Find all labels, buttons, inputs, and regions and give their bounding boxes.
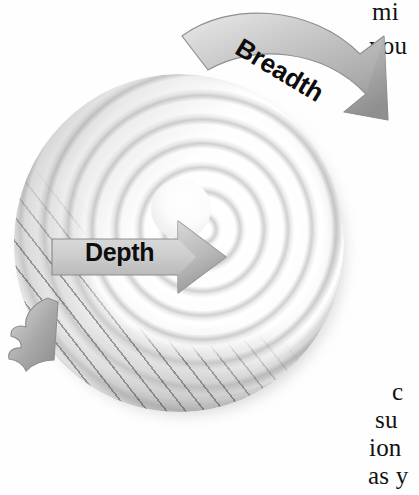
figure-canvas: mi you c su ion as y (0, 0, 419, 495)
body-text-fragment: su (375, 406, 398, 434)
depth-label: Depth (85, 235, 195, 269)
disk-edge-tail (2, 294, 66, 384)
body-text-fragment: as y (368, 462, 408, 490)
body-text-fragment: c (392, 378, 403, 406)
body-text-fragment: ion (369, 434, 402, 462)
